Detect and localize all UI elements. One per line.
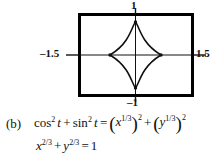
plus-operator-line2: +	[52, 138, 63, 153]
y-exponent-two-thirds: 2/3	[69, 138, 79, 147]
astroid-figure: 1 –1 –1.5 1.5	[0, 0, 222, 110]
y-exponent-one-third: 1/3	[165, 114, 175, 123]
x-exponent-one-third: 1/3	[121, 114, 131, 123]
cusp-marker-bottom	[134, 86, 137, 89]
x-exponent-two-thirds: 2/3	[42, 138, 52, 147]
equals-operator-line2: =	[79, 138, 90, 153]
cos-function: cos	[34, 115, 51, 130]
cusp-marker-left	[108, 53, 111, 56]
plus-operator-1: +	[61, 115, 72, 130]
sin-function: sin	[73, 115, 88, 130]
astroid-plot-svg	[0, 0, 222, 110]
equation-line-1: cos2t+sin2t=(x1/3)2+(y1/3)2	[34, 114, 186, 131]
axis-label-bottom: –1	[127, 97, 138, 108]
sin-variable-t: t	[92, 115, 98, 130]
equation-result: 1	[91, 138, 98, 153]
axis-label-right: 1.5	[196, 48, 210, 59]
part-label: (b)	[6, 116, 21, 132]
equation-line-2: x2/3+y2/3=1	[36, 138, 97, 154]
equation-block: (b) cos2t+sin2t=(x1/3)2+(y1/3)2 x2/3+y2/…	[0, 110, 222, 165]
y-group-exponent: 2	[182, 113, 186, 122]
cusp-marker-right	[159, 53, 162, 56]
axis-label-left: –1.5	[40, 48, 59, 59]
equals-operator-1: =	[98, 115, 109, 130]
plus-operator-2: +	[142, 115, 153, 130]
axis-label-top: 1	[131, 0, 137, 11]
cusp-marker-top	[134, 20, 137, 23]
